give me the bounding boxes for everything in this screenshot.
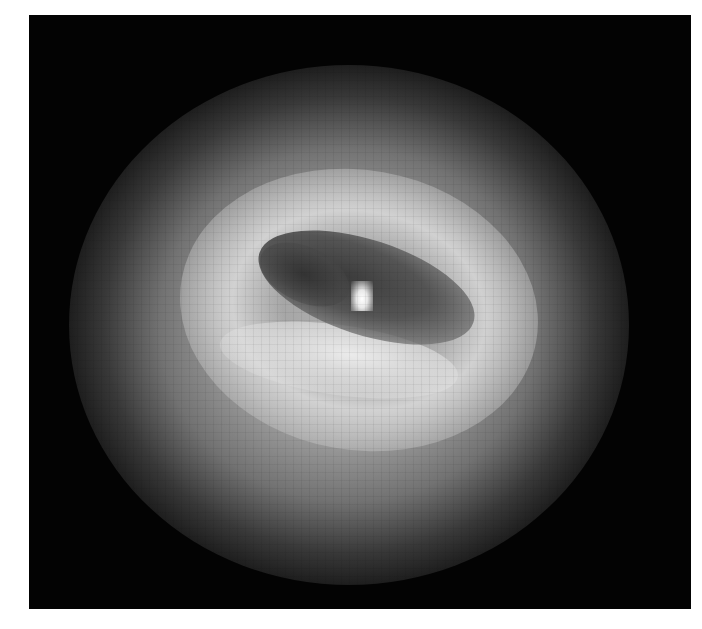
astronomical-image — [29, 15, 691, 609]
central-point-source — [351, 281, 373, 311]
page-canvas: ring-shaped disk with dark inner cavity … — [0, 0, 702, 629]
